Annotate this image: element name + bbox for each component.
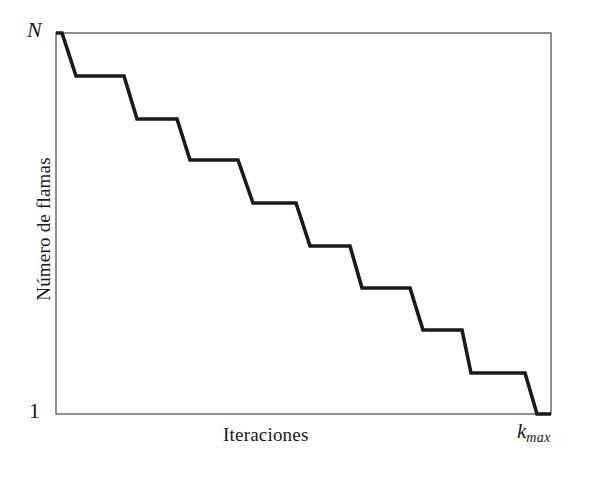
x-tick-base: k bbox=[517, 419, 526, 443]
figure-container: Número de flamas Iteraciones N 1 kmax bbox=[0, 0, 604, 477]
y-axis-tick-bottom: 1 bbox=[29, 398, 40, 424]
x-tick-subscript: max bbox=[526, 430, 550, 445]
step-chart-plot bbox=[0, 0, 604, 477]
x-axis-label: Iteraciones bbox=[223, 424, 309, 446]
y-axis-tick-top: N bbox=[27, 17, 42, 43]
staircase-line bbox=[56, 33, 551, 414]
x-axis-tick-right: kmax bbox=[517, 419, 551, 446]
y-axis-label: Número de flamas bbox=[33, 124, 55, 334]
